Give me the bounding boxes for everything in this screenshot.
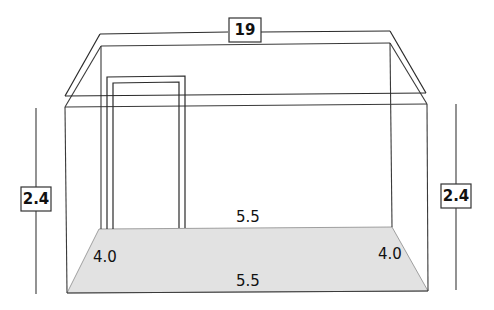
back-wall	[101, 43, 392, 229]
left-width-label: 4.0	[93, 248, 117, 266]
right-height-label: 2.4	[443, 187, 470, 205]
left-height-dimension: 2.4	[21, 108, 51, 294]
door	[107, 76, 185, 229]
front-length-label: 5.5	[236, 272, 260, 290]
room-diagram: 2.4 2.4 19 5.5 5.5 4.0 4.0	[0, 0, 494, 310]
right-width-label: 4.0	[378, 245, 402, 263]
roof-perimeter-label: 19	[235, 21, 256, 39]
back-length-label: 5.5	[236, 208, 260, 226]
left-height-label: 2.4	[23, 190, 50, 208]
right-height-dimension: 2.4	[441, 104, 471, 290]
